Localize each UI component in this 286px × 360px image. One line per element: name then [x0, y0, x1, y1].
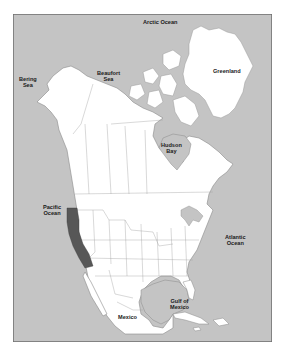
label-bering-sea: Bering Sea — [19, 76, 37, 88]
label-bering-line2: Sea — [19, 82, 37, 88]
label-pacific-line2: Ocean — [43, 210, 61, 216]
label-greenland: Greenland — [213, 68, 241, 74]
label-beaufort-sea: Beaufort Sea — [97, 70, 120, 82]
label-beaufort-line2: Sea — [97, 76, 120, 82]
label-atlantic-line2: Ocean — [225, 240, 246, 246]
label-mexico: Mexico — [118, 314, 137, 320]
label-gulf-of-mexico: Gulf of Mexico — [170, 298, 189, 310]
label-pacific-ocean: Pacific Ocean — [43, 204, 61, 216]
north-america-map — [13, 14, 272, 342]
map-frame: Arctic Ocean Greenland Bering Sea Beaufo… — [13, 14, 272, 342]
label-arctic-ocean: Arctic Ocean — [143, 19, 178, 25]
label-atlantic-ocean: Atlantic Ocean — [225, 234, 246, 246]
label-gulf-line2: Mexico — [170, 304, 189, 310]
label-hudson-bay: Hudson Bay — [161, 142, 182, 154]
label-hudson-line2: Bay — [161, 148, 182, 154]
